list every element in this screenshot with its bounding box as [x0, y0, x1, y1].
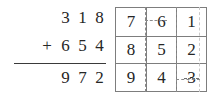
addition-horizontal-rule — [14, 63, 106, 64]
addition-sum-row: 9 7 2 — [0, 68, 108, 88]
grid-cell-r3c2[interactable]: 4 — [146, 63, 176, 91]
addend2-digit-tens: 5 — [74, 36, 91, 56]
grid-cell-r3c2-value: 4 — [157, 69, 166, 86]
plus-operator: + — [37, 36, 57, 56]
number-grid: 7 6 1 8 5 2 9 4 3 — [115, 7, 207, 92]
grid-cell-r1c2[interactable]: 6 — [146, 8, 176, 36]
addition-addend2-row: + 6 5 4 — [0, 36, 108, 56]
sum-digit-ones: 2 — [91, 68, 108, 88]
addend2-digit-ones: 4 — [91, 36, 108, 56]
grid-cell-r2c3-value: 2 — [187, 41, 196, 58]
grid-cell-r1c3[interactable]: 1 — [176, 8, 206, 36]
grid-cell-r2c2-value: 5 — [157, 41, 166, 58]
addend1-digit-ones: 8 — [91, 8, 108, 28]
addition-addend1-row: 3 1 8 — [0, 8, 108, 28]
grid-cell-r3c1[interactable]: 9 — [116, 63, 146, 91]
sum-digit-tens: 7 — [74, 68, 91, 88]
grid-cell-r1c3-value: 1 — [187, 13, 196, 30]
worksheet-canvas: 3 1 8 + 6 5 4 9 7 2 7 6 1 8 5 2 9 4 — [0, 0, 216, 100]
grid-cell-r1c1-value: 7 — [127, 13, 136, 30]
grid-cell-r2c1-value: 8 — [127, 41, 136, 58]
addend2-digit-hundreds: 6 — [57, 36, 74, 56]
grid-cell-r2c2[interactable]: 5 — [146, 36, 176, 64]
grid-cell-r3c3[interactable]: 3 — [176, 63, 206, 91]
grid-cell-r3c3-value: 3 — [187, 69, 196, 86]
number-grid-wrapper: 7 6 1 8 5 2 9 4 3 — [115, 7, 207, 92]
column-addition: 3 1 8 + 6 5 4 9 7 2 — [0, 0, 112, 100]
grid-cell-r1c1[interactable]: 7 — [116, 8, 146, 36]
grid-cell-r1c2-value: 6 — [157, 13, 166, 30]
grid-cell-r2c1[interactable]: 8 — [116, 36, 146, 64]
addend1-digit-hundreds: 3 — [57, 8, 74, 28]
sum-digit-hundreds: 9 — [57, 68, 74, 88]
grid-cell-r3c1-value: 9 — [127, 69, 136, 86]
grid-cell-r2c3[interactable]: 2 — [176, 36, 206, 64]
addend1-digit-tens: 1 — [74, 8, 91, 28]
